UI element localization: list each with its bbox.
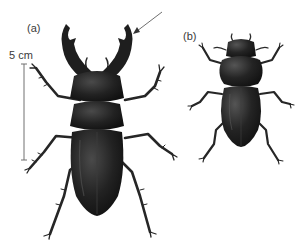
panel-b-label: (b) xyxy=(183,31,196,42)
beetle-illustrations xyxy=(0,0,305,248)
female-stag-beetle xyxy=(188,34,294,164)
scale-bar-label: 5 cm xyxy=(9,50,33,61)
male-stag-beetle xyxy=(25,24,177,239)
scale-bar xyxy=(21,64,27,160)
panel-a-label: (a) xyxy=(27,23,40,34)
arrow-icon xyxy=(133,12,162,34)
beetle-figure: (a) (b) 5 cm xyxy=(0,0,305,248)
